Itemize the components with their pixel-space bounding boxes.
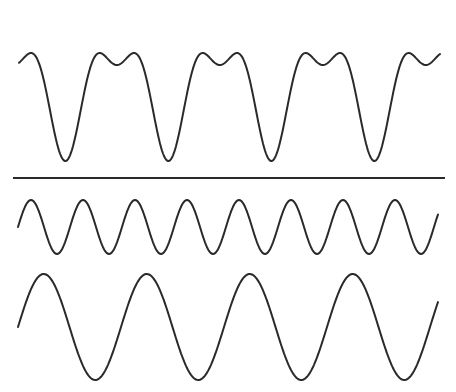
complex-waveform [19, 53, 440, 161]
waveform-diagram [0, 0, 456, 392]
harmonic-sine-wave [18, 200, 438, 254]
fundamental-sine-wave [18, 274, 438, 380]
